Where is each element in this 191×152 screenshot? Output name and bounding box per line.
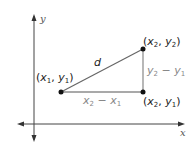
y-axis-down-arrow-icon (32, 135, 37, 142)
y-axis-label: y (39, 13, 46, 24)
x-axis-right-arrow-icon (178, 122, 185, 127)
label-point-x2-y1: (x2, y1) (143, 95, 181, 109)
label-distance-d: d (94, 56, 102, 69)
label-point-x1-y1: (x1, y1) (36, 71, 74, 85)
point-x1-y1 (59, 90, 64, 95)
label-point-x2-y2: (x2, y2) (143, 35, 181, 49)
distance-diagram: y x (x1, y1) (x2, y2) (x2, y1) d x2 − x1… (0, 0, 191, 152)
label-vertical-leg: y2 − y1 (146, 64, 185, 78)
y-axis-up-arrow-icon (32, 14, 37, 21)
label-horizontal-leg: x2 − x1 (82, 94, 121, 108)
point-x2-y1 (141, 90, 146, 95)
x-axis-label: x (180, 127, 186, 138)
x-axis-left-arrow-icon (17, 122, 24, 127)
